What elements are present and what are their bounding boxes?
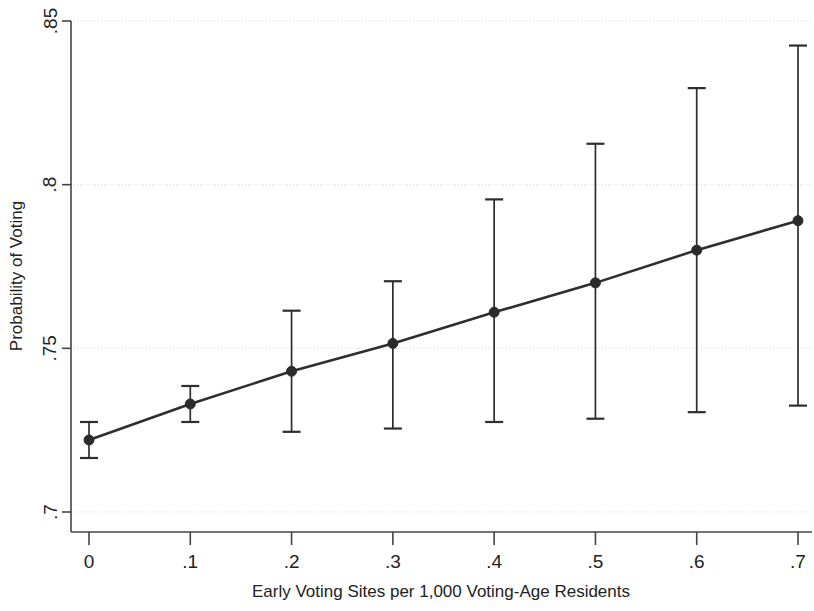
data-point-marker bbox=[793, 216, 803, 226]
chart-figure: .85.8.75.7 0.1.2.3.4.5.6.7 Early Voting … bbox=[0, 0, 814, 611]
data-point-marker bbox=[84, 435, 94, 445]
y-tick-label: .7 bbox=[40, 504, 61, 520]
data-point-marker bbox=[388, 338, 398, 348]
x-tick-label: .1 bbox=[182, 551, 198, 572]
x-tick-label: .4 bbox=[486, 551, 502, 572]
data-point-marker bbox=[692, 245, 702, 255]
data-point-marker bbox=[287, 366, 297, 376]
x-tick-label: .7 bbox=[790, 551, 806, 572]
data-point-marker bbox=[590, 278, 600, 288]
x-tick-label: 0 bbox=[84, 551, 95, 572]
data-point-marker bbox=[185, 399, 195, 409]
x-tick-label: .3 bbox=[385, 551, 401, 572]
x-axis-title: Early Voting Sites per 1,000 Voting-Age … bbox=[252, 582, 630, 601]
plot-area: .85.8.75.7 0.1.2.3.4.5.6.7 Early Voting … bbox=[0, 0, 814, 611]
data-point-marker bbox=[489, 307, 499, 317]
y-tick-label: .75 bbox=[40, 335, 61, 361]
x-tick-label: .2 bbox=[284, 551, 300, 572]
chart-background bbox=[0, 0, 814, 611]
y-tick-label: .85 bbox=[40, 8, 61, 34]
x-tick-label: .5 bbox=[587, 551, 603, 572]
x-tick-label: .6 bbox=[689, 551, 705, 572]
y-tick-label: .8 bbox=[40, 177, 61, 193]
y-axis-title: Probability of Voting bbox=[7, 201, 26, 351]
